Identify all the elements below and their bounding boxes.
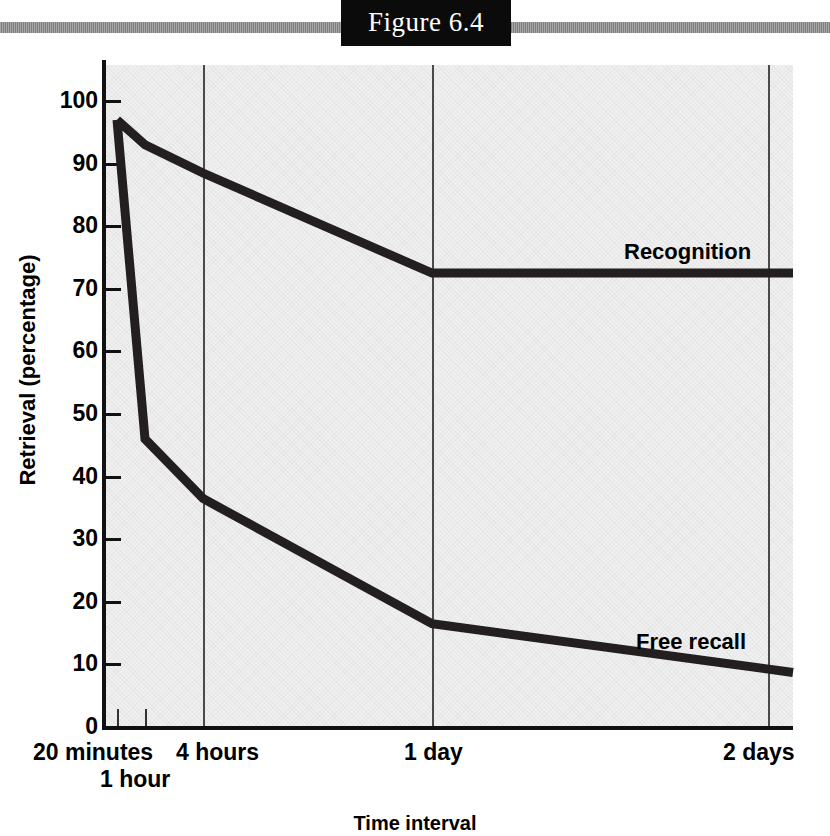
series-label-free-recall: Free recall	[636, 629, 746, 655]
x-tick-label-20-minutes: 20 minutes	[33, 740, 153, 764]
x-tick-label-1-day: 1 day	[404, 740, 463, 764]
x-tick-label-4-hours: 4 hours	[176, 740, 259, 764]
line-free-recall	[117, 120, 793, 673]
figure-banner: Figure 6.4	[0, 0, 830, 52]
x-tick-label-2-days: 2 days	[723, 740, 795, 764]
figure-label: Figure 6.4	[341, 0, 511, 46]
series-plot	[0, 52, 830, 836]
chart-area: 100 90 80 70 60 50 40 30 20 10 0 Retriev…	[0, 52, 830, 836]
x-axis-title: Time interval	[0, 812, 830, 835]
series-label-recognition: Recognition	[624, 239, 751, 265]
x-tick-label-1-hour: 1 hour	[100, 767, 170, 791]
